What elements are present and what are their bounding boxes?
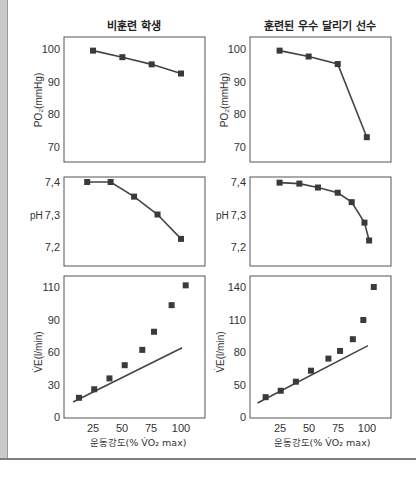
svg-text:100: 100 <box>172 422 190 434</box>
data-point-marker <box>108 179 114 185</box>
data-point-marker <box>360 317 366 323</box>
data-point-marker <box>371 284 377 290</box>
data-point-marker <box>178 71 184 77</box>
data-point-marker <box>364 134 370 140</box>
svg-text:90: 90 <box>234 76 246 88</box>
svg-text:25: 25 <box>274 422 286 434</box>
xlabel: 운동강도(% V̇O₂ max) <box>90 437 187 448</box>
svg-text:80: 80 <box>234 108 246 120</box>
svg-text:7,4: 7,4 <box>231 176 246 188</box>
ylabel-ph: pH <box>216 210 229 221</box>
figure: 비훈련 학생 훈련된 우수 달리기 선수 PO₂(mmHg) 100 90 80… <box>0 0 416 479</box>
data-point-marker <box>149 61 155 67</box>
data-point-marker <box>178 236 184 242</box>
data-point-marker <box>293 379 299 385</box>
panel-ph-trained: pH 7,4 7,3 7,2 <box>216 176 391 266</box>
ylabel-ph: pH <box>30 210 43 221</box>
data-point-marker <box>151 329 157 335</box>
svg-text:30: 30 <box>48 379 60 391</box>
yticks-ph: 7,4 7,3 7,2 <box>231 176 246 253</box>
data-point-marker <box>366 238 372 244</box>
svg-text:70: 70 <box>48 141 60 153</box>
yticks-ve: 140 110 80 50 0 <box>228 281 246 423</box>
svg-text:100: 100 <box>358 422 376 434</box>
svg-text:70: 70 <box>234 141 246 153</box>
svg-text:75: 75 <box>332 422 344 434</box>
data-point-marker <box>90 48 96 54</box>
svg-text:0: 0 <box>240 411 246 423</box>
svg-text:7,4: 7,4 <box>45 176 60 188</box>
series-line <box>280 183 370 241</box>
data-point-marker <box>122 362 128 368</box>
title-trained: 훈련된 우수 달리기 선수 <box>264 19 376 33</box>
data-point-marker <box>278 388 284 394</box>
data-point-marker <box>277 180 283 186</box>
data-point-marker <box>169 302 175 308</box>
ylabel-po2: PO₂(mmHg) <box>219 73 230 127</box>
data-point-marker <box>315 185 321 191</box>
svg-text:25: 25 <box>87 422 99 434</box>
svg-text:110: 110 <box>42 281 60 293</box>
data-point-marker <box>337 348 343 354</box>
data-point-marker <box>155 212 161 218</box>
data-point-marker <box>296 181 302 187</box>
panel-po2-trained: PO₂(mmHg) 100 90 80 70 <box>219 37 391 162</box>
svg-text:50: 50 <box>116 422 128 434</box>
svg-text:140: 140 <box>228 281 246 293</box>
series-line <box>87 182 181 239</box>
panel-ph-untrained: pH 7,4 7,3 7,2 <box>30 176 205 266</box>
svg-text:75: 75 <box>145 422 157 434</box>
svg-text:7,2: 7,2 <box>45 241 60 253</box>
plot-ve-trained <box>257 284 376 403</box>
plot-ph-trained <box>277 180 373 244</box>
ylabel-ve: V̇E(l/min) <box>214 331 226 372</box>
title-untrained: 비훈련 학생 <box>107 19 161 33</box>
plot-ph-untrained <box>84 179 184 242</box>
svg-text:0: 0 <box>54 411 60 423</box>
plot-po2-untrained <box>90 48 184 77</box>
ylabel-po2: PO₂(mmHg) <box>33 73 44 127</box>
data-point-marker <box>350 336 356 342</box>
data-point-marker <box>183 282 189 288</box>
yticks-ph: 7,4 7,3 7,2 <box>45 176 60 253</box>
data-point-marker <box>349 199 355 205</box>
trend-line <box>257 346 367 403</box>
frame <box>64 177 205 266</box>
data-point-marker <box>308 368 314 374</box>
xticks: 25 50 75 100 <box>274 422 376 434</box>
frame <box>250 37 391 162</box>
yticks-po2: 100 90 80 70 <box>42 43 60 153</box>
svg-text:110: 110 <box>228 314 246 326</box>
data-point-marker <box>119 54 125 60</box>
data-point-marker <box>335 190 341 196</box>
data-point-marker <box>263 394 269 400</box>
panel-po2-untrained: PO₂(mmHg) 100 90 80 70 <box>33 37 205 162</box>
data-point-marker <box>84 179 90 185</box>
svg-text:90: 90 <box>48 314 60 326</box>
data-point-marker <box>76 395 82 401</box>
plot-ve-untrained <box>73 282 189 402</box>
data-point-marker <box>306 54 312 60</box>
trend-line <box>73 348 182 402</box>
series-line <box>280 51 367 138</box>
svg-text:50: 50 <box>234 379 246 391</box>
data-point-marker <box>91 386 97 392</box>
xticks: 25 50 75 100 <box>87 422 190 434</box>
series-line <box>93 51 181 74</box>
svg-text:100: 100 <box>228 43 246 55</box>
xlabel: 운동강도(% V̇O₂ max) <box>274 437 371 448</box>
data-point-marker <box>361 220 367 226</box>
svg-text:80: 80 <box>234 346 246 358</box>
data-point-marker <box>131 194 137 200</box>
svg-text:7,3: 7,3 <box>45 209 60 221</box>
yticks-po2: 100 90 80 70 <box>228 43 246 153</box>
svg-text:50: 50 <box>303 422 315 434</box>
data-point-marker <box>277 48 283 54</box>
data-point-marker <box>106 375 112 381</box>
svg-text:7,2: 7,2 <box>231 241 246 253</box>
data-point-marker <box>325 356 331 362</box>
svg-text:7,3: 7,3 <box>231 209 246 221</box>
data-point-marker <box>335 61 341 67</box>
ylabel-ve: V̇E(l/min) <box>32 331 44 372</box>
panel-ve-trained: V̇E(l/min) 140 110 80 50 0 25 50 75 100 … <box>214 276 391 448</box>
